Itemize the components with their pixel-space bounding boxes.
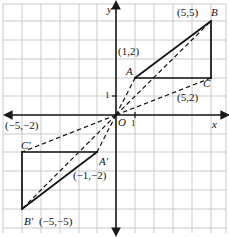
coord-label-B: (5,5) [177,7,198,18]
axis-label-x: x [212,119,217,130]
point-label-C-prime: C′ [21,140,31,151]
coord-label-C-prime: (−5,−2) [5,120,38,131]
coordinate-diagram: y x O 1 1 A B C A′ B′ C′ (1,2) (5,5) (5,… [0,0,229,237]
point-label-B-prime: B′ [24,216,33,227]
coord-label-A-prime: (−1,−2) [73,170,106,181]
coord-label-B-prime: (−5,−5) [39,216,72,227]
axis-label-y: y [107,4,112,15]
coord-label-A: (1,2) [118,46,139,57]
origin-label: O [118,117,126,128]
point-label-C: C [203,78,210,89]
point-label-A: A [126,66,133,77]
coord-label-C: (5,2) [177,92,198,103]
point-label-B: B [211,7,218,18]
point-label-A-prime: A′ [99,156,108,167]
y-axis-tick-label-1: 1 [105,91,110,100]
x-axis-tick-label-1: 1 [131,119,136,128]
